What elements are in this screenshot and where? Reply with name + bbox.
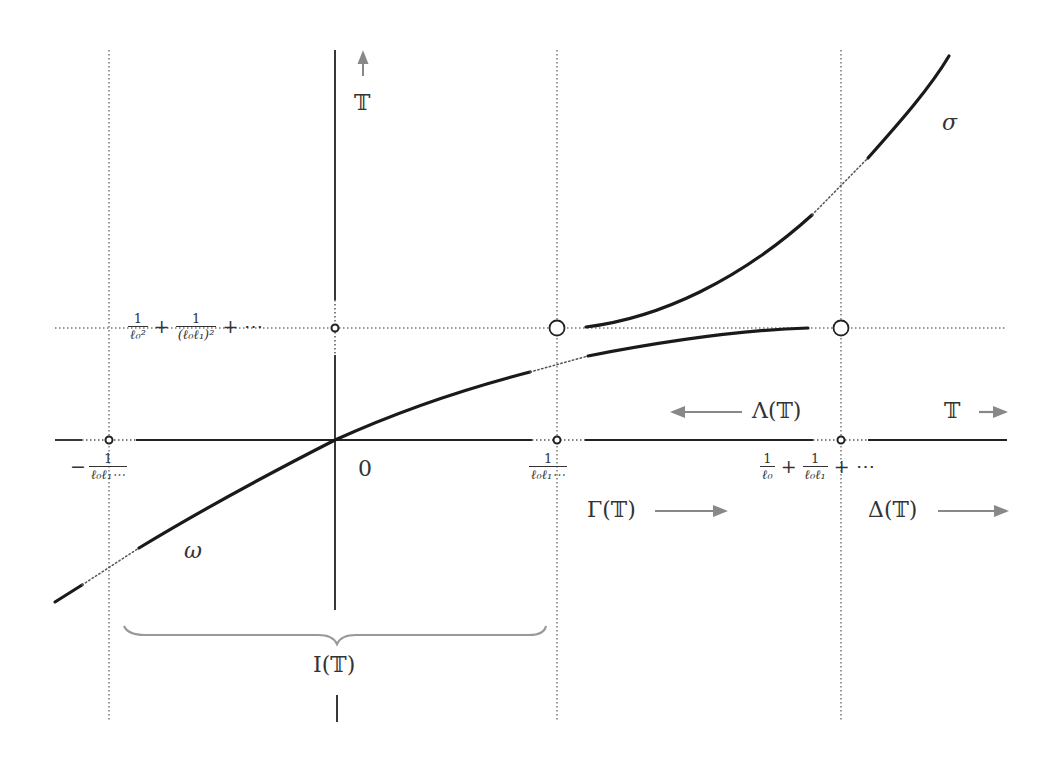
diagram-canvas: [0, 0, 1057, 767]
point-limit-mid: [550, 321, 565, 336]
point-neg: [106, 437, 113, 444]
point-mid: [554, 437, 561, 444]
interval-brace: [124, 626, 546, 644]
omega-label: ω: [184, 540, 202, 562]
tick-label-neg: −1ℓ₀ℓ₁⋯: [70, 452, 127, 481]
sigma-label: σ: [942, 112, 957, 134]
interval-label: I(𝕋): [313, 654, 355, 676]
point-vertical: [332, 325, 339, 332]
point-right: [838, 437, 845, 444]
tick-label-vertical: 1ℓ₀²+1(ℓ₀ℓ₁)²+⋯: [128, 312, 263, 341]
horizontal-axis-label: 𝕋: [944, 400, 960, 422]
vertical-axis: [335, 50, 337, 722]
origin-label: 0: [358, 458, 372, 480]
delta-label: Δ(𝕋): [868, 499, 917, 521]
lambda-label: Λ(𝕋): [752, 400, 801, 422]
tick-label-right: 1ℓ₀+1ℓ₀ℓ₁+⋯: [760, 452, 875, 481]
vertical-axis-label: 𝕋: [354, 92, 370, 114]
curve-omega: [55, 328, 808, 602]
tick-label-mid: 1ℓ₀ℓ₁⋯: [529, 452, 567, 481]
gamma-label: Γ(𝕋): [587, 499, 636, 521]
point-limit-right: [834, 321, 849, 336]
curve-sigma: [586, 56, 949, 327]
